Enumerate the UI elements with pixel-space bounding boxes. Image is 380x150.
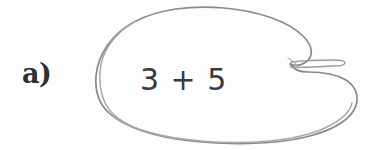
math-expression: 3 + 5 xyxy=(140,62,270,98)
blob-outline-bottom-second-pass xyxy=(113,103,352,143)
figure-container: a) 3 + 5 xyxy=(0,0,380,150)
blob-notch-sliver xyxy=(291,60,345,67)
item-label: a) xyxy=(22,58,82,90)
